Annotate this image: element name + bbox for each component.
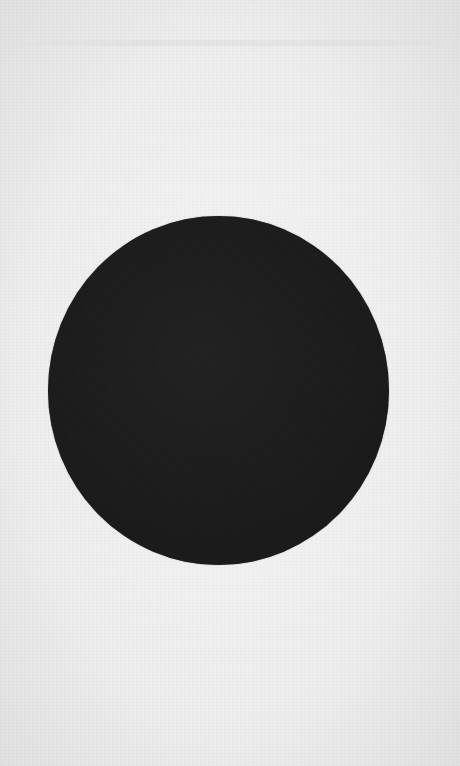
paper-background (0, 0, 460, 766)
black-circle (48, 216, 389, 565)
paper-texture-streak (10, 40, 450, 46)
